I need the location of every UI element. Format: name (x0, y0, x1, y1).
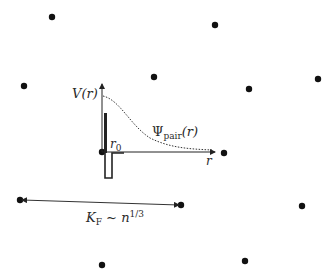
particle-dot (299, 203, 305, 209)
pair-wavefunction-label: Ψpair(r) (152, 124, 198, 141)
particle-dot (99, 262, 105, 268)
particle-dot (242, 258, 248, 264)
range-label: r0 (110, 137, 122, 153)
pair-potential-diagram: V(r) Ψpair(r) r0 r KF ~ n1/3 (0, 0, 336, 280)
particle-dot (221, 150, 227, 156)
particle-dot (315, 76, 321, 82)
repulsive-core-bar (104, 113, 107, 153)
fermi-label: KF ~ n1/3 (85, 209, 144, 227)
r-axis-label: r (206, 154, 213, 168)
pair-wavefunction-curve (103, 96, 212, 150)
particle-dot (151, 74, 157, 80)
particle-dot (49, 14, 55, 20)
particle-dot (246, 86, 252, 92)
spacing-arrow (22, 200, 179, 205)
potential-label: V(r) (72, 86, 98, 101)
attractive-well (105, 152, 124, 178)
particle-dot (21, 83, 27, 89)
particle-dot (212, 22, 218, 28)
